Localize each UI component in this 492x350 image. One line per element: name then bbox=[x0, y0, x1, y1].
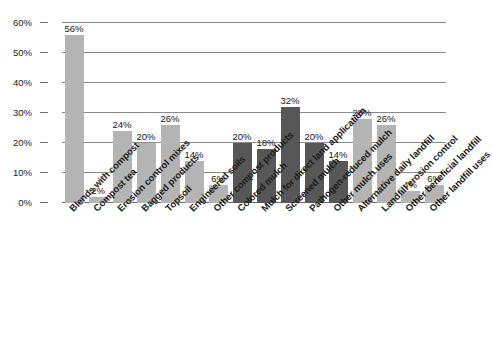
y-tick-mark bbox=[40, 52, 48, 53]
x-axis-labels: Blends with compostCompost teaErosion co… bbox=[62, 204, 446, 350]
y-tick-mark bbox=[40, 22, 48, 23]
y-tick-label: 50% bbox=[0, 48, 32, 57]
y-tick-mark bbox=[40, 142, 48, 143]
bar-value-label: 26% bbox=[149, 114, 191, 124]
bar-value-label: 56% bbox=[53, 24, 95, 34]
bar-value-label: 32% bbox=[269, 96, 311, 106]
y-tick-mark bbox=[40, 202, 48, 203]
y-tick-label: 30% bbox=[0, 108, 32, 117]
bar-value-label: 26% bbox=[365, 114, 407, 124]
bar-value-label: 24% bbox=[101, 120, 143, 130]
y-tick-mark bbox=[40, 172, 48, 173]
y-tick-label: 0% bbox=[0, 198, 32, 207]
y-tick-label: 20% bbox=[0, 138, 32, 147]
y-tick-label: 40% bbox=[0, 78, 32, 87]
y-tick-mark bbox=[40, 112, 48, 113]
y-axis: 0%10%20%30%40%50%60% bbox=[0, 23, 44, 203]
y-tick-label: 60% bbox=[0, 18, 32, 27]
y-tick-mark bbox=[40, 82, 48, 83]
y-tick-label: 10% bbox=[0, 168, 32, 177]
bar bbox=[65, 35, 84, 203]
